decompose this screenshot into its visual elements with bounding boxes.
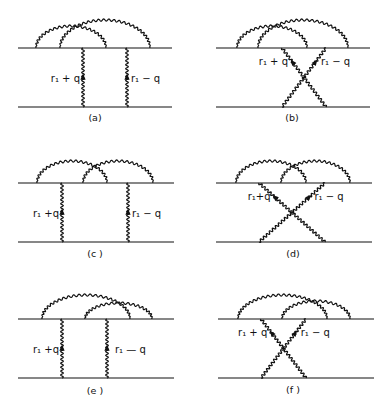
wavy-arc-2: [281, 160, 350, 183]
wavy-arc-2: [258, 19, 348, 48]
momentum-label-left: r₁ + q: [259, 56, 288, 67]
feynman-diagram-figure: r₁ + qr₁ − q(a)r₁ + qr₁ − q(b)r₁ +qr₁ − …: [0, 0, 392, 409]
momentum-label-left: r₁ +q: [33, 344, 59, 355]
panel-caption: (e ): [87, 385, 103, 396]
wavy-arc-2: [85, 302, 152, 319]
momentum-label-right: r₁ − q: [131, 73, 160, 84]
momentum-label-left: r₁ + q: [238, 327, 267, 338]
panel-caption: (a): [88, 112, 101, 123]
momentum-label-left: r₁ + q: [51, 73, 80, 84]
panel-b: r₁ + qr₁ − q(b): [216, 19, 370, 123]
panel-caption: (d): [286, 248, 299, 259]
panel-caption: (b): [285, 112, 298, 123]
wavy-arc-1: [236, 160, 306, 183]
panel-a: r₁ + qr₁ − q(a): [18, 19, 172, 123]
momentum-label-right: r₁ − q: [315, 191, 344, 202]
panel-caption: (c ): [87, 248, 103, 259]
panel-f: r₁ + qr₁ − q(f ): [218, 294, 374, 395]
momentum-label-right: r₁ — q: [115, 344, 146, 355]
momentum-label-left: r₁ +q: [33, 208, 59, 219]
momentum-label-right: r₁ − q: [132, 208, 161, 219]
exchange-line-crossed-2: [282, 48, 326, 107]
momentum-label-left: r₁+q: [248, 191, 271, 202]
wavy-arc-2: [83, 160, 153, 183]
panel-c: r₁ +qr₁ − q(c ): [18, 160, 174, 259]
momentum-label-right: r₁ − q: [301, 327, 330, 338]
panel-d: r₁+qr₁ − q(d): [216, 160, 372, 259]
momentum-label-right: r₁ − q: [321, 56, 350, 67]
panel-caption: (f ): [286, 384, 300, 395]
momentum-arrow-icon: [271, 193, 279, 201]
wavy-arc-1: [37, 160, 107, 183]
panel-e: r₁ +qr₁ — q(e ): [18, 294, 174, 396]
